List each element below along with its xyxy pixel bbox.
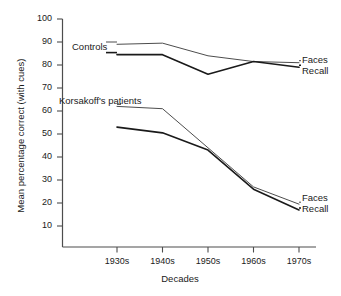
y-axis-title: Mean percentage correct (with cues)	[16, 63, 26, 213]
x-tick-label-1950s: 1950s	[191, 257, 225, 266]
y-tick-label-100: 100	[30, 14, 52, 23]
x-tick-label-1930s: 1930s	[100, 257, 134, 266]
y-tick-label-80: 80	[30, 60, 52, 69]
series-controls-faces	[117, 43, 299, 63]
x-tick-label-1940s: 1940s	[146, 257, 180, 266]
y-tick-label-10: 10	[30, 221, 52, 230]
y-tick-label-50: 50	[30, 129, 52, 138]
annotation-controls: Controls	[72, 42, 107, 53]
annotation-leader-lines	[106, 42, 301, 208]
series-controls-recall	[117, 55, 299, 75]
chart-figure: 100 90 80 70 60 50 40 30 20 10 1930s 194…	[0, 0, 341, 296]
y-axis-ticks	[57, 19, 63, 226]
y-tick-label-30: 30	[30, 175, 52, 184]
annotation-controls-recall: Recall	[302, 66, 328, 77]
y-tick-label-20: 20	[30, 198, 52, 207]
x-tick-label-1960s: 1960s	[237, 257, 271, 266]
y-tick-label-70: 70	[30, 83, 52, 92]
y-tick-label-90: 90	[30, 37, 52, 46]
x-axis-ticks	[117, 247, 299, 253]
annotation-korsakoff-recall: Recall	[302, 204, 328, 215]
y-tick-label-60: 60	[30, 106, 52, 115]
series-korsakoff-recall	[117, 127, 299, 210]
annotation-korsakoff-patients: Korsakoff's patients	[59, 96, 121, 107]
series-korsakoff-faces	[117, 106, 299, 204]
x-axis-title: Decades	[140, 274, 220, 284]
y-tick-label-40: 40	[30, 152, 52, 161]
x-tick-label-1970s: 1970s	[282, 257, 316, 266]
